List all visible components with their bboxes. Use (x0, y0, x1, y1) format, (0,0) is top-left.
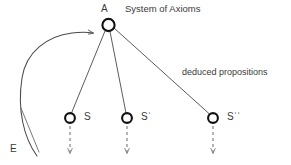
diagram-canvas: A System of Axioms deduced propositions … (0, 0, 291, 165)
node-s-double-prime-label: Sˈˈ (227, 112, 240, 122)
deduced-propositions-label: deduced propositions (182, 68, 268, 77)
node-s-prime-label: Sˈ (141, 112, 151, 122)
downward-implication-arrows (70, 126, 213, 152)
connector-a-to-s (72, 31, 106, 113)
node-s-double-prime[interactable] (208, 113, 218, 123)
node-s[interactable] (65, 113, 75, 123)
node-s-label: S (84, 112, 91, 122)
diagram-vector-layer (0, 0, 291, 165)
node-a-label: A (101, 4, 108, 14)
system-of-axioms-title: System of Axioms (125, 4, 201, 14)
experience-curve-arrow (20, 32, 93, 156)
node-axiom-a[interactable] (102, 19, 114, 31)
e-tick-segment (21, 108, 39, 152)
source-e-label: E (10, 144, 17, 154)
node-s-prime[interactable] (122, 113, 132, 123)
connector-a-to-s-prime (110, 32, 126, 114)
